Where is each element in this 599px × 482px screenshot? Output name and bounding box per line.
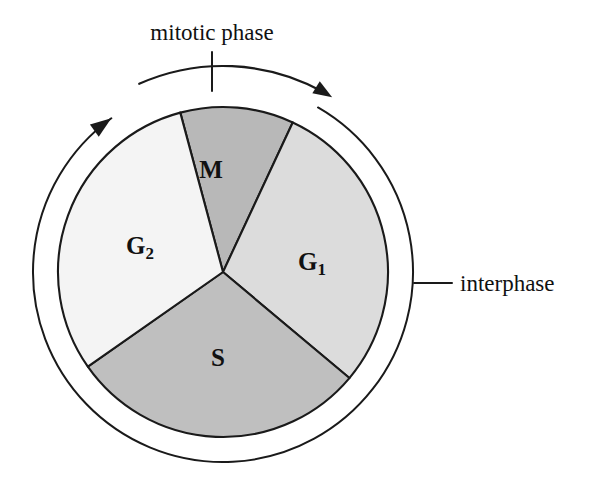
mitotic-arrow-group [139, 66, 332, 97]
pie-sector-group [58, 107, 388, 437]
pie-label-m: M [199, 156, 223, 183]
cell-cycle-figure: mitotic phase interphase MG1SG2 [0, 0, 599, 482]
mitotic-phase-label: mitotic phase [150, 20, 273, 45]
pie-label-s: S [211, 344, 225, 371]
mitotic-phase-arc [139, 66, 323, 92]
mitotic-arrowhead-icon [312, 81, 332, 97]
mitotic-phase-callout: mitotic phase [150, 20, 273, 91]
cell-cycle-diagram: mitotic phase interphase MG1SG2 [0, 0, 599, 482]
interphase-callout: interphase [414, 271, 555, 296]
interphase-label: interphase [460, 271, 555, 296]
